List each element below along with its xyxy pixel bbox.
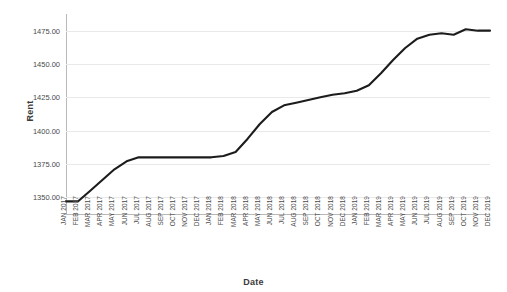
x-axis-tick-label: MAY 2018	[254, 196, 261, 248]
x-axis-tick-label: OCT 2018	[314, 196, 321, 248]
x-axis-tick-label: JAN 2017	[60, 196, 67, 248]
x-axis-tick-label: APR 2017	[96, 196, 103, 248]
x-axis-tick-label: MAY 2019	[399, 196, 406, 248]
x-axis-tick-label: JUL 2019	[423, 196, 430, 248]
rent-line-chart: Rent 1350.001375.001400.001425.001450.00…	[0, 0, 507, 292]
x-axis-tick-labels: JAN 2017FEB 2017MAR 2017APR 2017MAY 2017…	[66, 216, 490, 272]
y-axis-tick-label: 1475.00	[4, 26, 60, 35]
y-axis-tick-label: 1450.00	[4, 60, 60, 69]
x-axis-tick-label: NOV 2018	[327, 196, 334, 248]
x-axis-tick-label: MAR 2017	[84, 196, 91, 248]
x-axis-tick-label: JUN 2018	[266, 196, 273, 248]
x-axis-tick-label: FEB 2019	[363, 196, 370, 248]
y-axis-tick-label: 1375.00	[4, 160, 60, 169]
x-axis-tick-label: DEC 2017	[193, 196, 200, 248]
x-axis-tick-label: SEP 2018	[302, 196, 309, 248]
x-axis-tick-label: NOV 2017	[181, 196, 188, 248]
x-axis-tick-label: MAR 2019	[375, 196, 382, 248]
x-axis-tick-label: JAN 2018	[205, 196, 212, 248]
x-axis-tick-label: JUN 2017	[121, 196, 128, 248]
y-axis-tick-label: 1400.00	[4, 126, 60, 135]
x-axis-tick-label: OCT 2019	[460, 196, 467, 248]
x-axis-tick-label: AUG 2017	[145, 196, 152, 248]
x-axis-title: Date	[0, 277, 507, 287]
x-axis-tick-label: DEC 2018	[339, 196, 346, 248]
x-axis-tick-label: OCT 2017	[169, 196, 176, 248]
x-axis-tick-label: DEC 2019	[484, 196, 491, 248]
x-axis-tick-label: AUG 2018	[290, 196, 297, 248]
x-axis-tick-label: JUL 2018	[278, 196, 285, 248]
x-axis-tick-label: AUG 2019	[436, 196, 443, 248]
x-axis-tick-label: JUL 2017	[133, 196, 140, 248]
x-axis-tick-label: SEP 2019	[448, 196, 455, 248]
y-axis-tick-label: 1425.00	[4, 93, 60, 102]
x-axis-tick-label: MAR 2018	[230, 196, 237, 248]
x-axis-tick-label: APR 2018	[242, 196, 249, 248]
y-axis-tick-label: 1350.00	[4, 193, 60, 202]
x-axis-tick-label: FEB 2018	[217, 196, 224, 248]
x-axis-tick-label: APR 2019	[387, 196, 394, 248]
x-axis-tick-label: NOV 2019	[472, 196, 479, 248]
x-axis-tick-label: FEB 2017	[72, 196, 79, 248]
x-axis-tick-label: JUN 2019	[411, 196, 418, 248]
series-line-rent	[66, 14, 490, 214]
x-axis-tick-label: JAN 2019	[351, 196, 358, 248]
x-axis-tick-label: SEP 2017	[157, 196, 164, 248]
x-axis-tick-label: MAY 2017	[108, 196, 115, 248]
